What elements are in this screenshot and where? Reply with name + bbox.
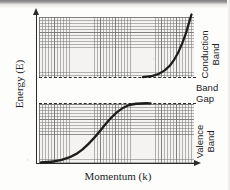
band-structure-figure: Energy (E) Momentum (k) Conduction Band … [0,0,230,190]
valence-band-curve [41,103,151,162]
valence-band-label: Valence Band [195,109,216,175]
band-gap-label-line2: Gap [196,93,214,104]
plot-area: Energy (E) Momentum (k) Conduction Band … [0,0,230,190]
x-axis-label: Momentum (k) [58,170,178,182]
y-axis-label: Energy (E) [13,49,25,119]
band-gap-label: Band Gap [196,82,218,104]
conduction-band-label-line2: Band [209,43,220,65]
valence-band-label-line1: Valence [194,125,205,159]
valence-band-label-line2: Band [204,130,215,152]
band-gap-label-line1: Band [196,82,218,93]
conduction-band-label-line1: Conduction [199,30,210,78]
conduction-band-curve [143,15,192,78]
